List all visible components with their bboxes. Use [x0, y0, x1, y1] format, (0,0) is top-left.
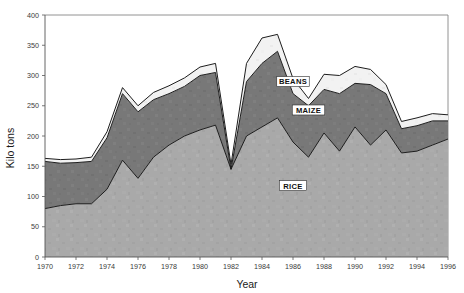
series-label-rice: RICE [283, 182, 302, 191]
y-tick-label: 50 [31, 222, 39, 231]
series-label-maize: MAIZE [296, 106, 321, 115]
series-label-beans: BEANS [279, 77, 307, 86]
y-axis-tick-labels: 050100150200250300350400 [27, 11, 39, 262]
y-tick-label: 350 [27, 41, 39, 50]
chart-areas [45, 34, 448, 257]
x-tick-label: 1976 [130, 262, 146, 271]
stacked-area-chart: 050100150200250300350400 197019721974197… [0, 0, 464, 293]
y-axis-title: Kilo tons [4, 128, 16, 168]
y-tick-label: 0 [35, 253, 39, 262]
y-tick-label: 250 [27, 101, 39, 110]
x-tick-label: 1990 [347, 262, 363, 271]
x-tick-label: 1982 [223, 262, 239, 271]
x-tick-label: 1992 [378, 262, 394, 271]
chart-container: 050100150200250300350400 197019721974197… [0, 0, 464, 293]
x-tick-label: 1970 [37, 262, 53, 271]
y-tick-label: 300 [27, 71, 39, 80]
x-tick-label: 1994 [409, 262, 425, 271]
x-tick-label: 1988 [316, 262, 332, 271]
x-tick-label: 1996 [440, 262, 456, 271]
y-tick-label: 200 [27, 132, 39, 141]
x-tick-label: 1986 [285, 262, 301, 271]
y-tick-label: 400 [27, 11, 39, 20]
x-tick-label: 1980 [192, 262, 208, 271]
y-tick-label: 150 [27, 162, 39, 171]
x-axis-title: Year [236, 278, 258, 290]
x-tick-label: 1984 [254, 262, 270, 271]
x-tick-label: 1972 [68, 262, 84, 271]
x-tick-label: 1974 [99, 262, 115, 271]
y-tick-label: 100 [27, 192, 39, 201]
x-axis-tick-labels: 1970197219741976197819801982198419861988… [37, 262, 456, 271]
x-tick-label: 1978 [161, 262, 177, 271]
